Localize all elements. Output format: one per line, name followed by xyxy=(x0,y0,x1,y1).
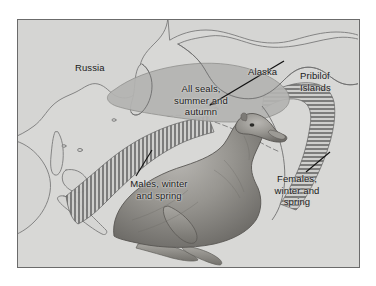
label-alaska: Alaska xyxy=(248,66,277,78)
label-all-seals-summer-autumn: All seals, summer and autumn xyxy=(158,83,244,118)
fur-seal-range-figure: Russia Alaska Pribilof Islands All seals… xyxy=(0,0,376,286)
label-russia: Russia xyxy=(75,62,105,74)
map-graphic xyxy=(18,20,358,266)
map-frame: Russia Alaska Pribilof Islands All seals… xyxy=(17,19,360,268)
label-pribilof-islands: Pribilof Islands xyxy=(300,70,359,93)
label-females-winter-spring: Females, winter and spring xyxy=(260,173,334,208)
label-males-winter-spring: Males, winter and spring xyxy=(124,178,194,201)
seal-eye xyxy=(250,123,255,127)
